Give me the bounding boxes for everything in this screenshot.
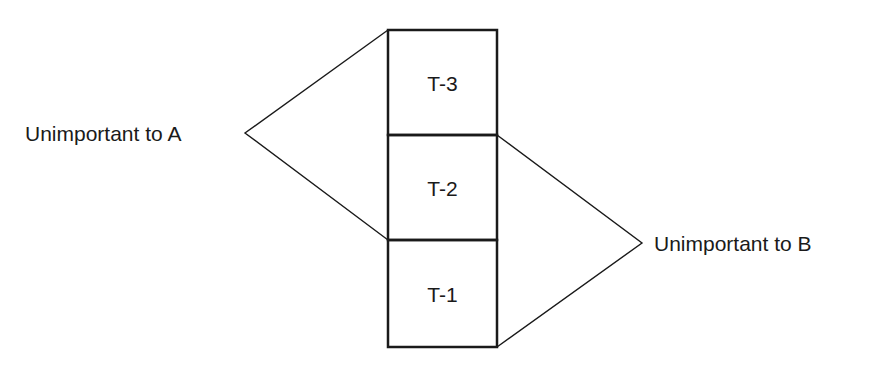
bracket-b bbox=[497, 135, 642, 347]
bracket-a bbox=[245, 30, 388, 240]
annotation-unimportant-to-b: Unimportant to B bbox=[654, 233, 812, 254]
block-label-t2: T-2 bbox=[388, 178, 497, 199]
diagram-canvas: T-3 T-2 T-1 Unimportant to A Unimportant… bbox=[0, 0, 890, 371]
annotation-unimportant-to-a: Unimportant to A bbox=[25, 123, 181, 144]
block-label-t1: T-1 bbox=[388, 284, 497, 305]
block-label-t3: T-3 bbox=[388, 73, 497, 94]
